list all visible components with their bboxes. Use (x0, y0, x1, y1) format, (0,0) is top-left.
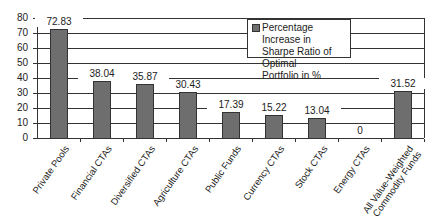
x-category-label: Energy CTAs (332, 144, 372, 195)
x-category-label: All Value-WeightedCommodity Funds (361, 144, 423, 221)
bar (308, 118, 326, 139)
y-tick-label: 50 (4, 57, 28, 68)
value-label: 0 (336, 125, 384, 136)
legend-line-3: Portfolio in % (262, 70, 352, 82)
x-category-label: Private Pools (31, 144, 71, 196)
x-tick (123, 139, 124, 142)
x-category-label: Currency CTAs (241, 144, 286, 202)
value-label: 35.87 (121, 71, 169, 82)
x-tick (209, 139, 210, 142)
x-tick (424, 139, 425, 142)
y-tick-label: 80 (4, 12, 28, 23)
x-category-label: Agriculture CTAs (151, 144, 200, 208)
x-tick (252, 139, 253, 142)
legend-line-2: Sharpe Ratio of Optimal (262, 46, 352, 70)
value-label: 30.43 (164, 79, 212, 90)
bar (179, 92, 197, 139)
bar (93, 81, 111, 139)
legend: Percentage Increase in Sharpe Ratio of O… (247, 19, 351, 58)
legend-label: Percentage Increase in Sharpe Ratio of O… (262, 22, 352, 82)
x-category-label: Diversified CTAs (109, 144, 157, 207)
x-category-label: Public Funds (203, 144, 243, 195)
value-label: 13.04 (293, 105, 341, 116)
y-tick-label: 0 (4, 132, 28, 143)
value-label: 38.04 (78, 68, 126, 79)
x-tick (80, 139, 81, 142)
bar (50, 29, 68, 139)
y-tick-label: 40 (4, 72, 28, 83)
bar (222, 112, 240, 139)
value-label: 17.39 (207, 99, 255, 110)
bar (394, 91, 412, 139)
value-label: 72.83 (35, 16, 83, 27)
bar (136, 84, 154, 139)
x-tick (338, 139, 339, 142)
value-label: 31.52 (379, 78, 427, 89)
bar (265, 115, 283, 139)
x-tick (381, 139, 382, 142)
x-tick (166, 139, 167, 142)
x-tick (295, 139, 296, 142)
y-tick-label: 30 (4, 87, 28, 98)
y-tick-label: 70 (4, 27, 28, 38)
y-tick-label: 60 (4, 42, 28, 53)
legend-line-1: Percentage Increase in (262, 22, 352, 46)
bar-chart: 01020304050607080 72.8338.0435.8730.4317… (0, 0, 440, 221)
legend-swatch-icon (252, 24, 260, 32)
y-tick-label: 20 (4, 102, 28, 113)
x-category-label: Financial CTAs (69, 144, 114, 202)
x-category-label: Stock CTAs (293, 144, 330, 190)
value-label: 15.22 (250, 102, 298, 113)
y-tick-label: 10 (4, 117, 28, 128)
